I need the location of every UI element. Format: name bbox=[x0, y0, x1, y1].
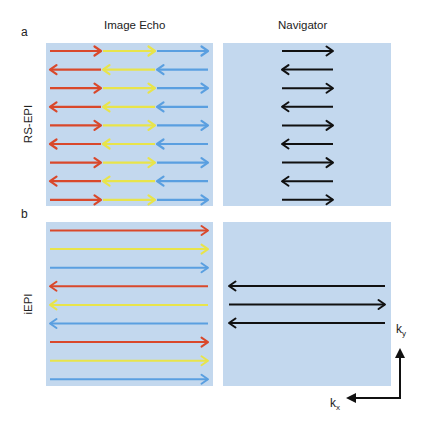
ky-axis-label: ky bbox=[396, 322, 406, 338]
kx-axis-label: kx bbox=[330, 396, 340, 412]
ky-arrowhead-icon bbox=[395, 348, 405, 358]
k-space-trajectory-diagram bbox=[0, 0, 427, 432]
kx-arrowhead-icon bbox=[346, 393, 356, 403]
